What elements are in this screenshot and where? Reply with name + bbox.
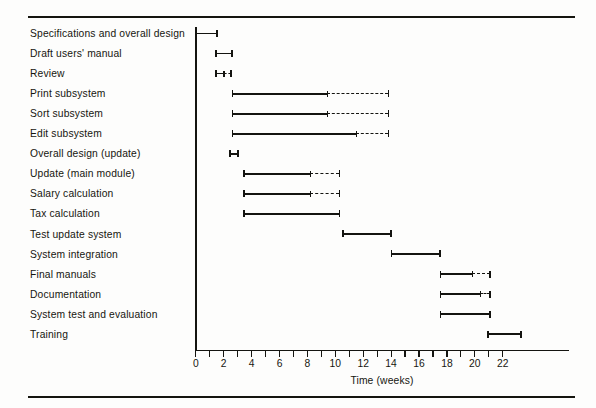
x-axis-tick xyxy=(349,351,350,357)
task-bar-start-cap xyxy=(391,250,393,257)
task-bar-end-cap xyxy=(230,70,232,77)
task-bar-mid-cap xyxy=(327,91,329,97)
task-bar-solid xyxy=(440,313,490,315)
task-label: System integration xyxy=(30,249,190,260)
x-axis-tick-label: 18 xyxy=(441,358,452,370)
task-bar-start-cap xyxy=(215,50,217,57)
task-bar-end-cap xyxy=(489,291,491,298)
x-axis-tick-label: 16 xyxy=(413,358,424,370)
x-axis-tick xyxy=(251,351,252,357)
task-label: Tax calculation xyxy=(30,208,190,219)
task-bar-solid xyxy=(243,213,339,215)
x-axis-tick-label: 12 xyxy=(357,358,368,370)
task-bar-end-cap xyxy=(216,30,218,37)
x-axis-tick-label: 20 xyxy=(469,358,480,370)
task-bar-dashed xyxy=(327,93,388,94)
x-axis-tick xyxy=(195,351,196,357)
x-axis-tick xyxy=(418,351,419,357)
task-bar-end-cap xyxy=(231,50,233,57)
task-bar-solid xyxy=(232,93,327,95)
task-bar-start-cap xyxy=(243,190,245,197)
task-bar-end-cap xyxy=(388,130,390,137)
x-axis-tick xyxy=(460,351,461,357)
task-bar-end-cap xyxy=(390,230,392,237)
task-bar-start-cap xyxy=(440,311,442,318)
top-rule xyxy=(28,16,575,18)
task-bar-dashed xyxy=(356,133,388,134)
task-bar-start-cap xyxy=(487,331,489,338)
task-bar-mid-cap xyxy=(223,71,225,77)
task-bar-start-cap xyxy=(232,90,234,97)
x-axis-tick xyxy=(488,351,489,357)
task-bar-end-cap xyxy=(237,150,239,157)
x-axis-tick xyxy=(335,351,336,357)
task-bar-end-cap xyxy=(439,250,441,257)
x-axis-tick xyxy=(474,351,475,357)
task-bar-mid-cap xyxy=(472,271,474,277)
task-bar-solid xyxy=(232,133,356,135)
task-bar-solid xyxy=(243,173,310,175)
task-bar-mid-cap xyxy=(310,171,312,177)
task-bar-dashed xyxy=(310,193,339,194)
x-axis-tick xyxy=(502,351,503,357)
task-bar-solid xyxy=(342,233,391,235)
task-label: Overall design (update) xyxy=(30,148,190,159)
task-bar-solid xyxy=(215,53,232,55)
task-bar-start-cap xyxy=(243,170,245,177)
task-label: Update (main module) xyxy=(30,168,190,179)
x-axis-tick-label: 0 xyxy=(193,358,199,370)
x-axis-tick-label: 6 xyxy=(277,358,283,370)
task-bar-end-cap xyxy=(489,271,491,278)
task-label: Review xyxy=(30,68,190,79)
task-bar-start-cap xyxy=(440,271,442,278)
x-axis-tick-label: 22 xyxy=(497,358,508,370)
task-bar-end-cap xyxy=(339,190,341,197)
task-bar-solid xyxy=(232,113,327,115)
task-bar-start-cap xyxy=(232,130,234,137)
x-axis-tick xyxy=(404,351,405,357)
task-label: Final manuals xyxy=(30,269,190,280)
task-bar-end-cap xyxy=(339,170,341,177)
x-axis-tick xyxy=(223,351,224,357)
task-bar-start-cap xyxy=(342,230,344,237)
task-bar-start-cap xyxy=(243,210,245,217)
task-bar-solid xyxy=(196,33,217,35)
task-label: Salary calculation xyxy=(30,188,190,199)
x-axis-tick xyxy=(446,351,447,357)
task-bar-mid-cap xyxy=(310,191,312,197)
x-axis-title: Time (weeks) xyxy=(195,375,569,386)
x-axis-tick xyxy=(209,351,210,357)
bottom-rule xyxy=(28,396,575,398)
task-bar-start-cap xyxy=(232,110,234,117)
x-axis-tick-label: 8 xyxy=(305,358,311,370)
task-bar-solid xyxy=(440,273,472,275)
task-label: Documentation xyxy=(30,289,190,300)
x-axis-tick xyxy=(237,351,238,357)
task-label: Test update system xyxy=(30,229,190,240)
task-label: Edit subsystem xyxy=(30,128,190,139)
x-axis-tick xyxy=(432,351,433,357)
task-label: Draft users' manual xyxy=(30,48,190,59)
task-label: Specifications and overall design xyxy=(30,28,190,39)
x-axis-tick xyxy=(279,351,280,357)
task-bar-end-cap xyxy=(388,90,390,97)
x-axis-tick xyxy=(391,351,392,357)
x-axis-tick-label: 2 xyxy=(221,358,227,370)
task-bar-start-cap xyxy=(440,291,442,298)
x-axis-tick xyxy=(321,351,322,357)
task-bar-end-cap xyxy=(520,331,522,338)
task-bar-end-cap xyxy=(339,210,341,217)
task-bar-mid-cap xyxy=(480,291,482,297)
task-bar-solid xyxy=(391,253,440,255)
task-bar-mid-cap xyxy=(327,111,329,117)
task-label: Print subsystem xyxy=(30,88,190,99)
task-label: Training xyxy=(30,329,190,340)
x-axis-tick xyxy=(307,351,308,357)
task-bar-start-cap xyxy=(195,30,197,37)
task-bar-end-cap xyxy=(489,311,491,318)
task-bar-solid xyxy=(440,293,480,295)
x-axis-tick xyxy=(265,351,266,357)
task-bar-start-cap xyxy=(215,70,217,77)
task-label: System test and evaluation xyxy=(30,309,190,320)
task-bar-dashed xyxy=(310,173,339,174)
